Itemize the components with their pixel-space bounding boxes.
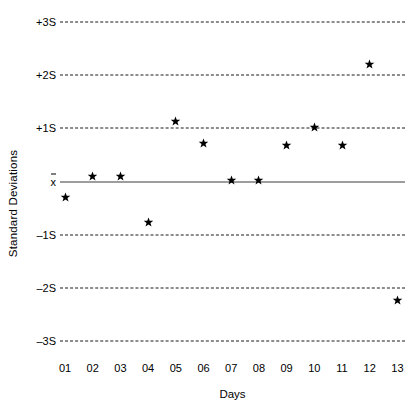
levey-jennings-chart: Standard Deviations +3S+2S+1Sx–1S–2S–3S … bbox=[0, 0, 417, 417]
y-tick-label-1: +2S bbox=[20, 70, 56, 81]
x-axis-title: Days bbox=[60, 388, 405, 400]
gridline-plus2S bbox=[60, 75, 405, 76]
gridline-plus1S bbox=[60, 128, 405, 129]
y-tick-label-3: x bbox=[20, 176, 56, 187]
data-point-day-02[interactable] bbox=[87, 171, 98, 182]
gridline-minus3S bbox=[60, 341, 405, 342]
x-tick-label-13: 13 bbox=[380, 362, 414, 374]
mean-symbol: x bbox=[51, 176, 57, 187]
data-point-day-09[interactable] bbox=[281, 140, 292, 151]
gridline-minus2S bbox=[60, 287, 405, 288]
data-point-day-10[interactable] bbox=[309, 122, 320, 133]
data-point-day-06[interactable] bbox=[198, 138, 209, 149]
gridline-plus3S bbox=[60, 22, 405, 23]
y-axis-title-label: Standard Deviations bbox=[7, 150, 19, 257]
y-axis-title: Standard Deviations bbox=[0, 0, 26, 417]
data-point-day-13[interactable] bbox=[392, 295, 403, 306]
y-tick-label-6: –3S bbox=[20, 336, 56, 347]
y-tick-label-4: –1S bbox=[20, 229, 56, 240]
y-tick-label-0: +3S bbox=[20, 17, 56, 28]
data-point-day-07[interactable] bbox=[226, 175, 237, 186]
data-point-day-08[interactable] bbox=[253, 175, 264, 186]
data-point-day-05[interactable] bbox=[170, 116, 181, 127]
data-point-day-04[interactable] bbox=[143, 217, 154, 228]
data-point-day-12[interactable] bbox=[364, 59, 375, 70]
data-point-day-01[interactable] bbox=[60, 192, 71, 203]
y-tick-label-2: +1S bbox=[20, 123, 56, 134]
gridline-minus1S bbox=[60, 234, 405, 235]
data-point-day-11[interactable] bbox=[337, 140, 348, 151]
y-tick-label-5: –2S bbox=[20, 282, 56, 293]
data-point-day-03[interactable] bbox=[115, 171, 126, 182]
